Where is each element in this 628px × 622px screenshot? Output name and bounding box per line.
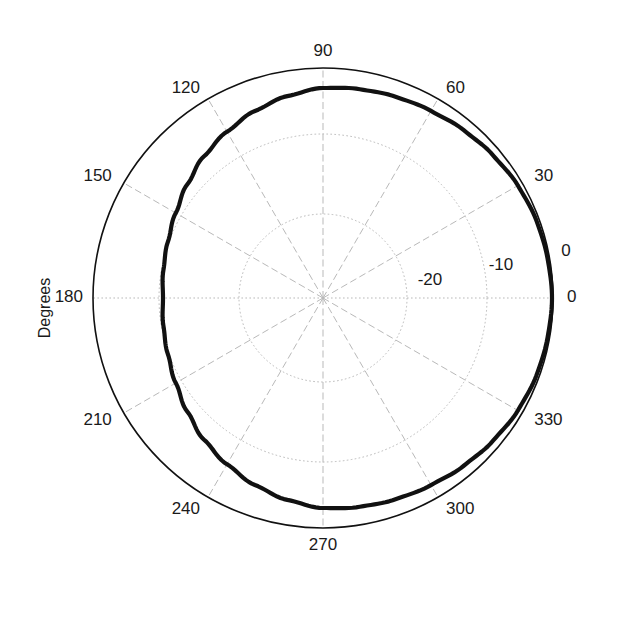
angular-tick-label-90: 90 bbox=[314, 41, 333, 60]
polar-chart-canvas: 0306090120150180210240270300330 -20-100 … bbox=[0, 0, 628, 622]
radial-tick-label--20: -20 bbox=[418, 270, 443, 289]
angular-tick-label-60: 60 bbox=[446, 78, 465, 97]
angular-tick-label-210: 210 bbox=[83, 410, 111, 429]
radial-tick-label-0: 0 bbox=[561, 241, 570, 260]
angular-tick-label-240: 240 bbox=[172, 499, 200, 518]
angular-tick-label-30: 30 bbox=[534, 166, 553, 185]
angular-tick-label-180: 180 bbox=[55, 287, 83, 306]
angular-tick-label-150: 150 bbox=[83, 166, 111, 185]
polar-plot-figure: 0306090120150180210240270300330 -20-100 … bbox=[0, 0, 628, 622]
y-axis-title: Degrees bbox=[36, 278, 53, 338]
angular-tick-label-270: 270 bbox=[309, 535, 337, 554]
angular-tick-label-0: 0 bbox=[567, 287, 576, 306]
angular-tick-label-330: 330 bbox=[534, 410, 562, 429]
axis-title-group: Degrees bbox=[36, 278, 53, 338]
radial-tick-label--10: -10 bbox=[489, 255, 514, 274]
figure-background bbox=[0, 0, 628, 622]
angular-tick-label-120: 120 bbox=[172, 78, 200, 97]
angular-tick-label-300: 300 bbox=[446, 499, 474, 518]
